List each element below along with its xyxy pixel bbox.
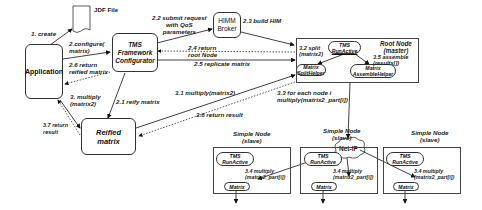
- edge-2-1-reify: 2.1 reify matrix: [116, 98, 160, 105]
- edge-3-1-multiply: 3.1 multiply(matrix2): [175, 89, 235, 96]
- root-node-title: Root Node (master): [380, 40, 412, 54]
- sn2-step-2: (matrix2_part[i]): [333, 174, 373, 180]
- reified-line-2: matrix: [97, 137, 120, 146]
- sn3-tms-2: RunActive: [392, 159, 418, 165]
- tms-framework-configurator-box[interactable]: TMS Framework Configurator: [112, 33, 158, 72]
- configurator-line-3: Configurator: [115, 57, 154, 65]
- sn3-title-1: Simple Node: [411, 129, 448, 136]
- sn2-title-1: Simple Node: [323, 127, 360, 134]
- sn1-step-2: (matrix2_part[i]): [245, 174, 285, 180]
- sn3-step-2: (matrix2_part[i]): [414, 174, 454, 180]
- simple-node-2-tms[interactable]: TMS RunActive: [304, 152, 342, 166]
- e37-line-1: 3.7 return: [43, 122, 68, 129]
- broker-line-2: Broker: [217, 25, 236, 33]
- e35-line-2: (results[]): [373, 60, 408, 66]
- application-box[interactable]: Application: [25, 44, 63, 99]
- edge-2-configure: 2.configure( matrix): [69, 40, 104, 54]
- edge-2-6-return: 2.6 return reified matrix: [69, 61, 108, 75]
- edge-3-2-split: 3.2 split (matrix2): [299, 45, 323, 58]
- e3-line-2: (matrix2): [70, 100, 101, 107]
- sn1-title-2: (slave): [233, 137, 270, 144]
- edge-3-5-assemble: 3.5 assemble (results[]): [373, 54, 408, 67]
- assemble-helper-line-2: AssembleHelper: [353, 71, 394, 77]
- e22-line-2: with QoS: [152, 21, 207, 28]
- himm-broker-box[interactable]: HIMM Broker: [213, 12, 241, 38]
- simple-node-3-tms[interactable]: TMS RunActive: [386, 152, 424, 166]
- e33-line-2: multiply(matrix2_part[i]): [277, 96, 348, 103]
- sn3-title-2: (slave): [411, 136, 448, 143]
- simple-node-2-step: 3.4 multiply (matrix2_part[i]): [333, 168, 373, 180]
- root-tms-line-2: RunActive: [332, 48, 358, 54]
- edge-2-3-build: 2.3 build HIM: [243, 17, 281, 24]
- e26-line-1: 2.6 return: [69, 61, 108, 68]
- edge-3-6-return: 3.6 return result: [196, 111, 243, 118]
- simple-node-3-step: 3.4 multiply (matrix2_part[i]): [414, 168, 454, 180]
- configurator-line-1: TMS: [128, 41, 142, 49]
- jdf-file-label: JDF File: [94, 6, 118, 13]
- e37-line-2: result: [43, 129, 68, 136]
- edge-3-multiply: 3. multiply (matrix2): [70, 93, 101, 107]
- e33-line-1: 3.3 for each node i: [277, 89, 348, 96]
- e22-line-1: 2.2 submit request: [152, 14, 207, 21]
- split-helper-line-2: SplitHelper: [297, 70, 324, 76]
- e3-line-1: 3. multiply: [70, 93, 101, 100]
- simple-node-3-title: Simple Node (slave): [411, 129, 448, 143]
- broker-line-1: HIMM: [218, 17, 235, 25]
- simple-node-1-tms[interactable]: TMS RunActive: [216, 152, 254, 166]
- root-tms-runactive[interactable]: TMS RunActive: [328, 41, 361, 54]
- root-node-line-2: (master): [380, 47, 412, 54]
- simple-node-1-title: Simple Node (slave): [233, 130, 270, 144]
- sn1-tms-2: RunActive: [222, 159, 248, 165]
- sn2-tms-2: RunActive: [310, 159, 336, 165]
- e26-line-2: reified matrix: [69, 68, 108, 75]
- reified-matrix-box[interactable]: Reified matrix: [81, 118, 136, 155]
- edge-2-5-replicate: 2.5 replicate matrix: [194, 60, 250, 67]
- matrix-split-helper[interactable]: Matrix SplitHelper: [296, 64, 326, 76]
- edge-1-create: 1. create: [31, 30, 56, 37]
- edge-3-3-for-each: 3.3 for each node i multiply(matrix2_par…: [277, 89, 348, 103]
- simple-node-1-step: 3.4 multiply (matrix2_part[i]): [245, 168, 285, 180]
- e24-line-1: 2.4 return: [188, 44, 217, 51]
- edge-2-4-return: 2.4 return root Node: [188, 44, 217, 58]
- application-label: Application: [25, 68, 63, 75]
- e2-line-1: 2.configure(: [69, 40, 104, 47]
- simple-node-2-title: Simple Node (slave): [323, 127, 360, 141]
- e2-line-2: matrix): [69, 47, 104, 54]
- e22-line-3: parameters: [152, 28, 207, 35]
- configurator-line-2: Framework: [118, 49, 153, 57]
- root-node-line-1: Root Node: [380, 40, 412, 47]
- simple-node-2-matrix[interactable]: Matrix: [311, 182, 337, 191]
- e24-line-2: root Node: [188, 51, 217, 58]
- edge-3-7-return: 3.7 return result: [43, 122, 68, 136]
- sn1-title-1: Simple Node: [233, 130, 270, 137]
- reified-line-1: Reified: [96, 128, 121, 137]
- edge-2-2-submit: 2.2 submit request with QoS parameters: [152, 14, 207, 35]
- sn2-title-2: (slave): [323, 134, 360, 141]
- simple-node-3-matrix[interactable]: Matrix: [393, 182, 419, 191]
- simple-node-1-matrix[interactable]: Matrix: [224, 182, 250, 191]
- e32-line-2: (matrix2): [299, 51, 323, 57]
